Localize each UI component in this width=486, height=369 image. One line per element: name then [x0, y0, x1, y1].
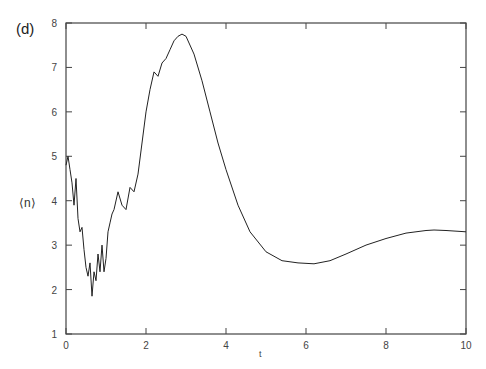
x-tick-label: 10: [460, 340, 472, 351]
y-tick-label: 4: [51, 196, 57, 207]
x-tick-label: 8: [383, 340, 389, 351]
y-tick-label: 7: [51, 62, 57, 73]
y-tick-label: 5: [51, 151, 57, 162]
y-tick-label: 3: [51, 240, 57, 251]
plot-frame: [66, 23, 466, 334]
axis-ticks: 024681012345678: [51, 18, 472, 351]
x-tick-label: 4: [223, 340, 229, 351]
x-tick-label: 6: [303, 340, 309, 351]
y-tick-label: 6: [51, 107, 57, 118]
y-tick-label: 1: [51, 329, 57, 340]
y-tick-label: 2: [51, 285, 57, 296]
data-line: [66, 34, 466, 296]
y-tick-label: 8: [51, 18, 57, 29]
line-chart: 024681012345678: [0, 0, 486, 369]
x-tick-label: 0: [63, 340, 69, 351]
x-tick-label: 2: [143, 340, 149, 351]
